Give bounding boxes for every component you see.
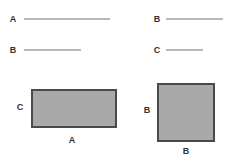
segment-b-line <box>24 49 81 51</box>
rectangle-a-by-c <box>31 89 117 128</box>
square-bottom-label: B <box>183 146 190 156</box>
square-b-by-b <box>157 83 215 142</box>
rectangle-side-label: C <box>17 102 24 112</box>
segment-b-right-line <box>166 18 223 20</box>
segment-b-label: B <box>10 45 17 55</box>
segment-c-label: C <box>154 45 161 55</box>
rectangle-bottom-label: A <box>69 135 76 145</box>
segment-b-right-label: B <box>154 14 161 24</box>
segment-a-label: A <box>10 14 17 24</box>
square-side-label: B <box>144 105 151 115</box>
segment-c-line <box>166 49 203 51</box>
segment-a-line <box>24 18 110 20</box>
